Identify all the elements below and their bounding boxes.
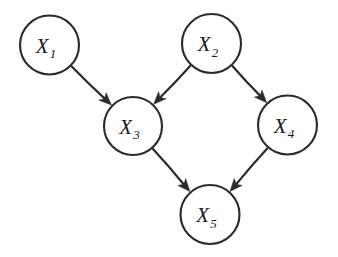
dag-canvas: X1X2X3X4X5 [0,0,338,257]
edge-line [72,67,105,99]
edge-x2-to-x3 [154,66,190,104]
edge-line [233,66,261,96]
dag-figure: X1X2X3X4X5 [0,0,338,257]
node-circle[interactable] [20,16,79,75]
node-x1[interactable] [20,16,79,75]
node-circle[interactable] [182,14,241,73]
node-x4[interactable] [258,96,317,155]
node-x3[interactable] [104,97,162,155]
node-circle[interactable] [258,96,317,155]
edge-x1-to-x3 [72,67,112,106]
node-circle[interactable] [104,97,162,155]
edge-line [236,148,267,184]
node-x2[interactable] [182,14,241,73]
node-circle[interactable] [181,185,240,244]
node-x5[interactable] [181,185,240,244]
edge-line [153,149,184,185]
edge-x4-to-x5 [230,148,267,191]
edge-x3-to-x5 [153,149,190,191]
edge-line [160,66,190,98]
edge-x2-to-x4 [233,66,267,103]
